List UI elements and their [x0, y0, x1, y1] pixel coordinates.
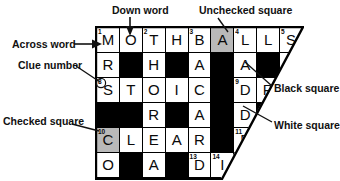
clue-number: 2: [144, 28, 148, 35]
grid-cell-r6c2: [119, 153, 142, 178]
grid-cell-r5c8[interactable]: [257, 128, 280, 153]
grid-cell-r1c5[interactable]: 3B: [188, 28, 211, 53]
grid-row: OA13D14I: [97, 153, 303, 178]
clue-number: 4: [235, 28, 239, 35]
grid-cell-r4c3[interactable]: R: [142, 103, 165, 128]
grid-cell-r5c2[interactable]: L: [119, 128, 142, 153]
grid-cell-r1c9[interactable]: 5S: [280, 28, 303, 53]
clue-number: 15: [98, 178, 105, 179]
grid-cell-r7c9[interactable]: [280, 178, 303, 180]
grid-cell-r1c1[interactable]: 1M: [97, 28, 120, 53]
grid-cell-r3c1[interactable]: 8S: [97, 78, 120, 103]
grid-cell-r2c6: [211, 53, 234, 78]
grid-cell-r3c2[interactable]: T: [119, 78, 142, 103]
grid-cell-r6c4: [165, 153, 188, 178]
grid-row: 15: [97, 178, 303, 180]
grid-cell-r1c7[interactable]: 4L: [234, 28, 257, 53]
label-across-word: Across word: [12, 38, 76, 50]
grid-cell-r7c6[interactable]: [211, 178, 234, 180]
grid-cell-r1c8[interactable]: L: [257, 28, 280, 53]
grid-cell-r4c1: [97, 103, 120, 128]
grid-cell-r7c2[interactable]: [119, 178, 142, 180]
grid-cell-r6c1[interactable]: O: [97, 153, 120, 178]
grid-cell-r1c3[interactable]: 2T: [142, 28, 165, 53]
grid-cell-r5c5[interactable]: R: [188, 128, 211, 153]
grid-cell-r6c5[interactable]: 13D: [188, 153, 211, 178]
clue-number: 8: [98, 78, 102, 85]
grid-cell-r7c7[interactable]: [234, 178, 257, 180]
grid-cell-r6c7[interactable]: [234, 153, 257, 178]
clue-number: 1: [98, 28, 102, 35]
grid-cell-r1c6[interactable]: A: [211, 28, 234, 53]
label-down-word: Down word: [112, 4, 169, 16]
grid-row: RAD: [97, 103, 303, 128]
grid-letter: R: [97, 53, 119, 77]
grid-cell-r6c6[interactable]: 14I: [211, 153, 234, 178]
grid-cell-r2c8: [257, 53, 280, 78]
grid-cell-r4c5[interactable]: A: [188, 103, 211, 128]
grid-cell-r5c3[interactable]: E: [142, 128, 165, 153]
grid-cell-r2c3[interactable]: H: [142, 53, 165, 78]
grid-row: 10CLEAR11E: [97, 128, 303, 153]
clue-number: 13: [190, 153, 197, 160]
grid-row: 1MO2TH3BA4LL5S: [97, 28, 303, 53]
grid-letter: A: [189, 103, 211, 127]
grid-letter: A: [143, 153, 165, 177]
label-checked-square: Checked square: [3, 115, 84, 127]
grid-cell-r3c5[interactable]: C: [188, 78, 211, 103]
crossword-grid-table[interactable]: 1MO2TH3BA4LL5SRHAA8STOIC9DRRAD10CLEAR11E…: [96, 27, 303, 179]
grid-letter: H: [143, 53, 165, 77]
grid-cell-r3c3[interactable]: O: [142, 78, 165, 103]
grid-cell-r7c8[interactable]: [257, 178, 280, 180]
grid-letter: H: [166, 28, 188, 52]
grid-cell-r4c7[interactable]: D: [234, 103, 257, 128]
grid-letter: A: [211, 28, 233, 52]
grid-cell-r5c1[interactable]: 10C: [97, 128, 120, 153]
grid-cell-r2c1[interactable]: R: [97, 53, 120, 78]
grid-letter: L: [120, 128, 142, 152]
crossword-grid[interactable]: 1MO2TH3BA4LL5SRHAA8STOIC9DRRAD10CLEAR11E…: [96, 27, 303, 179]
grid-cell-r6c3[interactable]: A: [142, 153, 165, 178]
grid-cell-r7c4[interactable]: [165, 178, 188, 180]
grid-cell-r2c5[interactable]: A: [188, 53, 211, 78]
grid-letter: I: [166, 78, 188, 102]
grid-letter: L: [257, 28, 279, 52]
grid-cell-r3c7[interactable]: 9D: [234, 78, 257, 103]
grid-cell-r2c7[interactable]: A: [234, 53, 257, 78]
label-black-square: Black square: [274, 82, 339, 94]
grid-cell-r7c5[interactable]: [188, 178, 211, 180]
grid-cell-r5c9[interactable]: [280, 128, 303, 153]
grid-letter: R: [143, 103, 165, 127]
grid-letter: C: [189, 78, 211, 102]
grid-cell-r3c4[interactable]: I: [165, 78, 188, 103]
grid-letter: R: [189, 128, 211, 152]
grid-cell-r7c1[interactable]: 15: [97, 178, 120, 180]
clue-number: 11: [235, 128, 242, 135]
grid-cell-r3c6: [211, 78, 234, 103]
grid-cell-r6c9[interactable]: [280, 153, 303, 178]
grid-cell-r7c3[interactable]: [142, 178, 165, 180]
grid-letter: E: [143, 128, 165, 152]
grid-letter: O: [97, 153, 119, 177]
grid-cell-r4c2: [119, 103, 142, 128]
grid-cell-r1c4[interactable]: H: [165, 28, 188, 53]
grid-row: RHAA: [97, 53, 303, 78]
grid-cell-r1c2[interactable]: O: [119, 28, 142, 53]
clue-number: 9: [235, 78, 239, 85]
clue-number: 5: [281, 28, 285, 35]
grid-letter: A: [234, 53, 256, 77]
grid-letter: A: [189, 53, 211, 77]
grid-letter: A: [166, 128, 188, 152]
grid-row: 8STOIC9DR: [97, 78, 303, 103]
grid-cell-r6c8[interactable]: [257, 153, 280, 178]
grid-cell-r2c9[interactable]: [280, 53, 303, 78]
grid-letter: T: [120, 78, 142, 102]
clue-number: 3: [190, 28, 194, 35]
grid-cell-r5c4[interactable]: A: [165, 128, 188, 153]
grid-cell-r4c4: [165, 103, 188, 128]
clue-number: 10: [98, 128, 105, 135]
label-white-square: White square: [274, 119, 340, 131]
grid-cell-r5c7[interactable]: 11E: [234, 128, 257, 153]
grid-cell-r2c2: [119, 53, 142, 78]
